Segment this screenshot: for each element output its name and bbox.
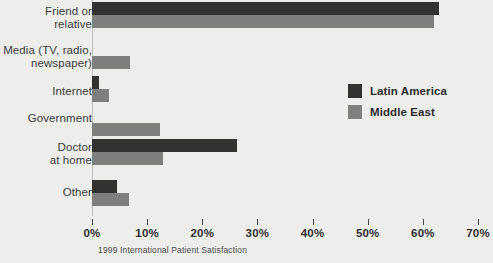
legend: Latin America Middle East bbox=[348, 84, 447, 126]
legend-swatch-middle-east bbox=[348, 105, 362, 119]
x-axis-tick bbox=[202, 219, 203, 225]
category-label: Doctor at home bbox=[0, 141, 92, 167]
x-axis-tick bbox=[423, 219, 424, 225]
category-label: Friend or relative bbox=[0, 5, 92, 31]
bar-latin-america bbox=[92, 139, 237, 152]
bar-chart: Friend or relativeMedia (TV, radio, news… bbox=[0, 0, 493, 263]
x-axis-tick bbox=[92, 219, 93, 225]
x-axis-tick-label: 10% bbox=[135, 227, 159, 239]
x-axis: 0%10%20%30%40%50%60%70% bbox=[92, 216, 493, 246]
legend-label-latin-america: Latin America bbox=[370, 85, 447, 97]
x-axis-tick bbox=[147, 219, 148, 225]
bar-middle-east bbox=[92, 193, 129, 206]
category-label: Internet bbox=[0, 85, 92, 98]
legend-item-middle-east: Middle East bbox=[348, 105, 447, 119]
x-axis-tick bbox=[257, 219, 258, 225]
category-label: Other bbox=[0, 186, 92, 199]
bar-middle-east bbox=[92, 123, 160, 136]
x-axis-tick-label: 70% bbox=[466, 227, 490, 239]
bar-latin-america bbox=[92, 180, 117, 193]
bar-latin-america bbox=[92, 76, 99, 89]
bar-middle-east bbox=[92, 56, 130, 69]
category-label: Media (TV, radio, newspaper) bbox=[0, 44, 92, 70]
legend-item-latin-america: Latin America bbox=[348, 84, 447, 98]
bar-middle-east bbox=[92, 152, 163, 165]
x-axis-tick bbox=[313, 219, 314, 225]
chart-caption: 1999 International Patient Satisfaction bbox=[98, 245, 247, 255]
x-axis-tick bbox=[368, 219, 369, 225]
bar-middle-east bbox=[92, 15, 434, 28]
legend-label-middle-east: Middle East bbox=[370, 106, 435, 118]
x-axis-tick bbox=[478, 219, 479, 225]
category-label: Government bbox=[0, 112, 92, 125]
bar-middle-east bbox=[92, 89, 109, 102]
x-axis-tick-label: 30% bbox=[246, 227, 270, 239]
x-axis-tick-label: 60% bbox=[411, 227, 435, 239]
x-axis-tick-label: 20% bbox=[190, 227, 214, 239]
legend-swatch-latin-america bbox=[348, 84, 362, 98]
bar-latin-america bbox=[92, 2, 439, 15]
x-axis-tick-label: 40% bbox=[301, 227, 325, 239]
x-axis-tick-label: 0% bbox=[83, 227, 100, 239]
x-axis-tick-label: 50% bbox=[356, 227, 380, 239]
